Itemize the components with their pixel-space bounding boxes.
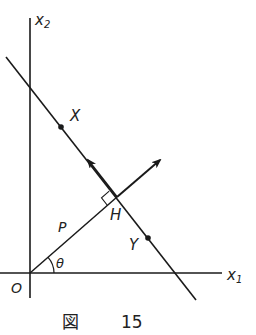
main-line [6, 57, 196, 300]
angle-theta-label: θ [56, 256, 64, 271]
right-angle-marker [102, 191, 110, 205]
x2-axis-label: x2 [34, 11, 50, 30]
figure-diagram: x2 x1 O X H Y P θ 図 15 [0, 0, 256, 335]
x1-axis-label: x1 [226, 266, 242, 285]
segment-OH [30, 197, 117, 273]
point-Y [145, 235, 151, 241]
point-H-label: H [110, 206, 121, 224]
direction-vector-arrow [88, 160, 117, 197]
point-X-label: X [69, 107, 81, 125]
origin-label: O [11, 280, 22, 296]
figure-caption-prefix: 図 [62, 312, 79, 332]
theta-arc [48, 257, 54, 273]
figure-caption-number: 15 [121, 312, 143, 332]
point-Y-label: Y [129, 236, 140, 254]
distance-P-label: P [58, 219, 67, 235]
normal-vector-arrow [117, 160, 160, 197]
point-X [58, 124, 64, 130]
